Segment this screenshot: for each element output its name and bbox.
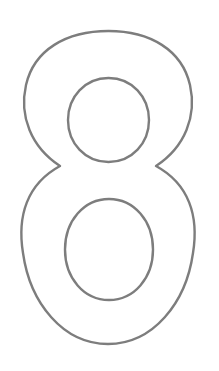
digit-eight-outline-icon xyxy=(0,0,219,371)
canvas: 8 xyxy=(0,0,219,371)
page-background xyxy=(0,0,219,371)
